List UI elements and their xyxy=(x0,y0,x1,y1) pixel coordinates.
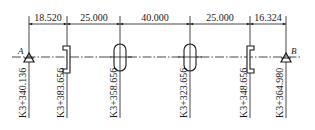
station-label-1: K3+383.656 xyxy=(55,68,66,118)
dim-label-5: 16.324 xyxy=(254,12,282,23)
station-label-3: K3+323.656 xyxy=(178,68,189,118)
station-label-2: K3+358.656 xyxy=(108,68,119,118)
station-labels: K3+340.136 K3+383.656 K3+358.656 K3+323.… xyxy=(17,68,285,118)
point-b-label: B xyxy=(291,46,297,56)
slot-1-icon xyxy=(108,44,132,71)
dim-label-1: 18.520 xyxy=(34,12,62,23)
slot-2-icon xyxy=(178,44,202,71)
point-a-label: A xyxy=(17,46,24,56)
dimension-labels: 18.520 25.000 40.000 25.000 16.324 xyxy=(34,12,282,23)
dim-label-3: 40.000 xyxy=(141,12,169,23)
dim-label-2: 25.000 xyxy=(80,12,108,23)
station-label-a: K3+340.136 xyxy=(17,68,28,118)
station-label-4: K3+348.656 xyxy=(238,68,249,118)
station-label-b: K3+364.980 xyxy=(274,68,285,118)
dim-label-4: 25.000 xyxy=(206,12,234,23)
stationing-diagram: 18.520 25.000 40.000 25.000 16.324 A B K… xyxy=(0,0,315,130)
